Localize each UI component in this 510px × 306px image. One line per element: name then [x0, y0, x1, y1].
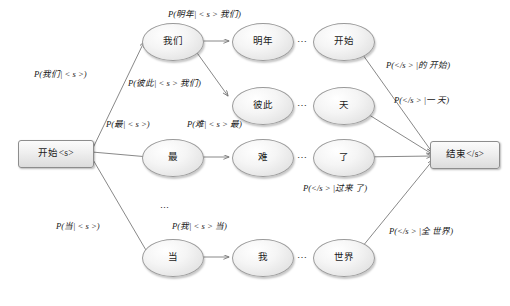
- edge-label-tian-end: P(</s > |一 天): [394, 96, 449, 105]
- start-node-label: 开始<s>: [38, 149, 73, 159]
- edge-label-start-dang: P(当| < s >): [56, 222, 100, 231]
- state-node-women[interactable]: 我们: [142, 23, 204, 61]
- state-label: 了: [339, 153, 349, 163]
- state-node-tian[interactable]: 天: [313, 87, 375, 125]
- state-label: 彼此: [253, 101, 273, 111]
- state-node-nan[interactable]: 难: [232, 139, 294, 177]
- state-node-le[interactable]: 了: [313, 139, 375, 177]
- edge-label-zui-nan: P(难| < s > 最): [187, 120, 242, 129]
- edge-label-dang-wo: P(我| < s > 当): [172, 222, 227, 231]
- state-node-mingnian[interactable]: 明年: [232, 23, 294, 61]
- state-label: 世界: [334, 253, 354, 263]
- edge-label-women-bici: P(彼此| < s > 我们): [128, 79, 201, 88]
- edge-shijie-to-end: [358, 160, 433, 252]
- row-3-ellipsis: ⋯: [297, 153, 308, 163]
- edge-label-le-end: P(</s > |过来 了): [303, 184, 367, 193]
- state-label: 难: [258, 153, 268, 163]
- state-label: 开始: [334, 37, 354, 47]
- lattice-diagram: 开始<s> 结束</s> 我们 明年 ⋯ 开始 彼此 ⋯ 天 最 难 ⋯ 了 当…: [0, 0, 510, 306]
- edge-label-kaishi-end: P(</s > |的 开始): [386, 61, 450, 70]
- edge-start-to-dang: [92, 158, 150, 257]
- edge-label-women-mingnian: P(明年| < s > 我们): [168, 10, 241, 19]
- end-node[interactable]: 结束</s>: [430, 141, 500, 169]
- state-node-wo[interactable]: 我: [232, 239, 294, 277]
- edge-label-shijie-end: P(</s > |全 世界): [389, 227, 453, 236]
- end-node-label: 结束</s>: [446, 150, 484, 160]
- row-4-ellipsis: ⋯: [297, 253, 308, 263]
- row-2-ellipsis: ⋯: [297, 101, 308, 111]
- state-label: 我: [258, 253, 268, 263]
- state-label: 我们: [163, 37, 183, 47]
- edge-label-start-zui: P(最| < s >): [106, 120, 150, 129]
- state-node-dang[interactable]: 当: [142, 239, 204, 277]
- state-label: 当: [168, 253, 178, 263]
- state-node-shijie[interactable]: 世界: [313, 239, 375, 277]
- state-label: 天: [339, 101, 349, 111]
- edge-women-to-bici: [195, 50, 228, 96]
- state-label: 明年: [253, 37, 273, 47]
- vertical-ellipsis: ⋮: [159, 203, 168, 212]
- state-node-zui[interactable]: 最: [142, 139, 204, 177]
- state-node-kaishi[interactable]: 开始: [313, 23, 375, 61]
- edge-start-to-zui: [92, 152, 149, 157]
- start-node[interactable]: 开始<s>: [18, 140, 94, 168]
- state-label: 最: [168, 153, 178, 163]
- edge-start-to-women: [92, 42, 144, 150]
- row-1-ellipsis: ⋯: [297, 37, 308, 47]
- edge-label-start-women: P(我们| < s >): [34, 70, 87, 79]
